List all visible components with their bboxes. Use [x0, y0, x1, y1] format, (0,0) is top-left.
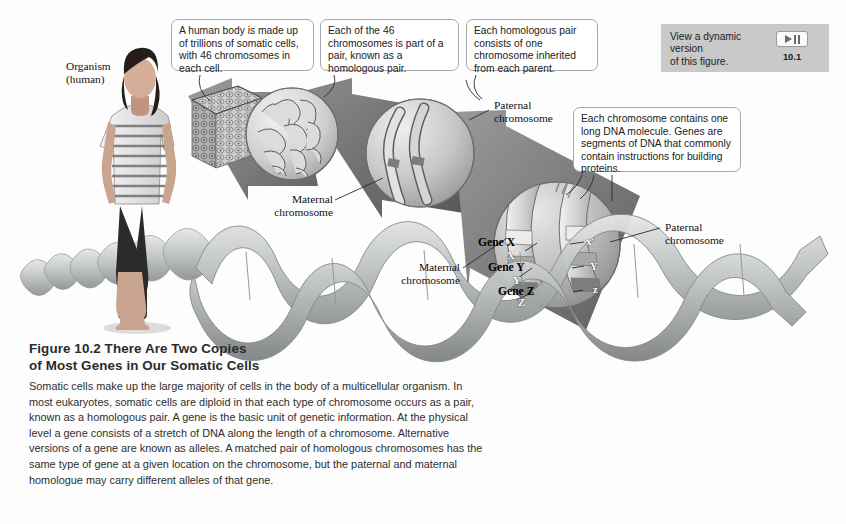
- person-illustration: [100, 48, 176, 334]
- figure-title: Figure 10.2 There Are Two Copies of Most…: [29, 341, 484, 374]
- pause-icon-bar2: [798, 35, 800, 44]
- dynamic-version-control: 10.1: [776, 31, 808, 62]
- label-organism-line1: Organism: [66, 60, 111, 73]
- dynamic-version-line1: View a dynamic version: [670, 31, 774, 56]
- allele-maternal-x: X: [507, 250, 515, 261]
- label-paternal-detail-line1: Paternal: [665, 221, 724, 234]
- callout-somatic-cells-text: A human body is made up of trillions of …: [179, 25, 299, 74]
- gene-label-z: Gene Z: [498, 285, 534, 298]
- label-maternal-detail-line2: chromosome: [378, 274, 460, 287]
- figure-title-line1: Figure 10.2 There Are Two Copies: [29, 341, 484, 358]
- allele-paternal-x: x: [586, 236, 591, 247]
- label-paternal-detail-line2: chromosome: [665, 234, 724, 247]
- callout-homologous-pair: Each of the 46 chromosomes is part of a …: [320, 19, 459, 71]
- cell-circle: [246, 88, 338, 180]
- callout-dna-genes: Each chromosome contains one long DNA mo…: [573, 107, 741, 172]
- label-paternal-top-line1: Paternal: [494, 99, 553, 112]
- callout-inheritance-text: Each homologous pair consists of one chr…: [474, 25, 576, 74]
- callout-somatic-cells: A human body is made up of trillions of …: [171, 19, 314, 71]
- figure-caption-body: Somatic cells make up the large majority…: [29, 379, 484, 488]
- pause-icon: [794, 35, 796, 44]
- play-icon: [785, 35, 792, 43]
- gene-label-x: Gene X: [478, 236, 515, 249]
- callout-dna-genes-text: Each chromosome contains one long DNA mo…: [581, 113, 731, 174]
- dynamic-version-widget[interactable]: View a dynamic version of this figure. 1…: [661, 24, 829, 72]
- label-maternal-detail-line1: Maternal: [378, 261, 460, 274]
- figure-caption: Figure 10.2 There Are Two Copies of Most…: [29, 341, 484, 488]
- allele-paternal-y: Y: [590, 261, 598, 272]
- dynamic-version-line2: of this figure.: [670, 56, 774, 68]
- figure-title-line2: of Most Genes in Our Somatic Cells: [29, 358, 484, 375]
- label-maternal-chromosome-mid: Maternal chromosome: [251, 193, 333, 218]
- label-paternal-chromosome-top: Paternal chromosome: [494, 99, 553, 124]
- label-paternal-top-line2: chromosome: [494, 112, 553, 125]
- allele-maternal-z: Z: [518, 297, 525, 308]
- callout-inheritance: Each homologous pair consists of one chr…: [466, 19, 598, 71]
- gene-label-y: Gene Y: [488, 261, 525, 274]
- label-organism: Organism (human): [66, 60, 111, 85]
- callout-homologous-pair-text: Each of the 46 chromosomes is part of a …: [328, 25, 444, 74]
- label-maternal-chromosome-detail: Maternal chromosome: [378, 261, 460, 286]
- chromosome-pair-circle: [366, 99, 474, 207]
- label-organism-line2: (human): [66, 73, 111, 86]
- allele-paternal-z: z: [593, 284, 598, 295]
- play-pause-button[interactable]: [776, 31, 808, 47]
- allele-maternal-y: Y: [513, 275, 521, 286]
- label-maternal-mid-line1: Maternal: [251, 193, 333, 206]
- label-maternal-mid-line2: chromosome: [251, 206, 333, 219]
- dynamic-version-number: 10.1: [783, 51, 801, 62]
- dynamic-version-label: View a dynamic version of this figure.: [670, 31, 774, 68]
- label-paternal-chromosome-detail: Paternal chromosome: [665, 221, 724, 246]
- figure-canvas: A human body is made up of trillions of …: [0, 0, 846, 524]
